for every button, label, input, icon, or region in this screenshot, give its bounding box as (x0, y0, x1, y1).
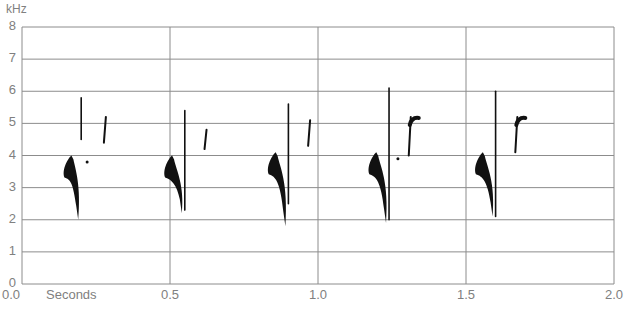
y-tick-label: 3 (0, 179, 16, 194)
main-note (164, 156, 182, 214)
x-tick-label: 0.0 (2, 287, 20, 302)
y-tick-label: 8 (0, 18, 16, 33)
upper-note (104, 117, 106, 143)
note-dot (86, 160, 89, 163)
x-tick-label: 0.5 (161, 287, 179, 302)
y-tick-label: 7 (0, 50, 16, 65)
x-axis-unit-label: Seconds (46, 287, 97, 302)
syllable-marks (64, 88, 526, 226)
main-note (475, 152, 493, 216)
upper-note (205, 130, 207, 149)
main-note (268, 152, 286, 226)
x-tick-label: 1.0 (309, 287, 327, 302)
y-tick-label: 6 (0, 82, 16, 97)
note-dot (396, 157, 399, 160)
x-tick-label: 1.5 (457, 287, 475, 302)
spectrogram-plot (0, 0, 630, 312)
y-tick-label: 5 (0, 114, 16, 129)
x-tick-label: 2.0 (605, 287, 623, 302)
grid-lines (22, 27, 614, 284)
upper-note-hook (516, 118, 525, 125)
y-tick-label: 1 (0, 243, 16, 258)
upper-note (308, 120, 310, 146)
y-tick-label: 4 (0, 147, 16, 162)
y-axis-unit-label: kHz (6, 2, 27, 16)
y-tick-label: 2 (0, 211, 16, 226)
upper-note-hook (410, 118, 419, 125)
